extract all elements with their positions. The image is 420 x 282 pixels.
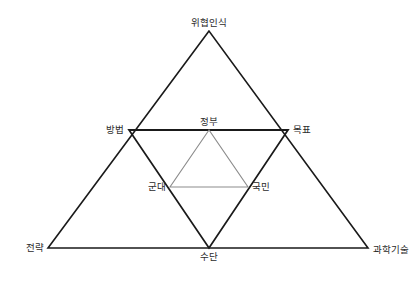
nested-triangle-diagram: 위협인식 방법 정부 목표 군대 국민 전략 수단 과학기술 [0, 0, 420, 282]
label-bottom-right-science-technology: 과학기술 [373, 245, 409, 255]
label-inner-left-military: 군대 [148, 182, 166, 192]
outer-triangle [48, 31, 368, 248]
label-inner-right-people: 국민 [252, 182, 270, 192]
inner-triangle [170, 130, 248, 187]
label-apex-threat-perception: 위협인식 [191, 18, 227, 28]
label-middle-right-goal: 목표 [293, 125, 311, 135]
label-middle-left-method: 방법 [106, 125, 124, 135]
label-middle-center-government: 정부 [200, 117, 218, 127]
label-bottom-left-strategy: 전략 [26, 243, 44, 253]
triangle-graphic [0, 0, 420, 282]
label-bottom-center-means: 수단 [200, 252, 218, 262]
